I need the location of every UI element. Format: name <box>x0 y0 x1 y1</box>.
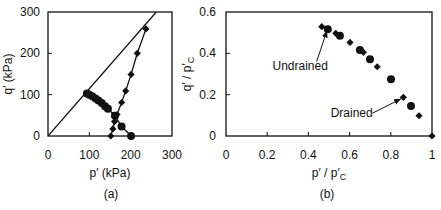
chart-a-ytick-1: 100 <box>20 88 40 102</box>
chart-b-data <box>318 23 435 140</box>
chart-a: 0 100 200 300 0 100 200 300 p′ (kPa) q′ … <box>1 5 182 201</box>
circle-marker <box>118 122 126 130</box>
chart-b-ylabel-sub: C <box>186 56 196 63</box>
annotation-label: Drained <box>331 106 373 120</box>
diamond-marker <box>118 99 125 106</box>
diamond-marker <box>400 94 407 101</box>
chart-b-ylabel: q′ / p′C <box>180 56 196 91</box>
chart-b-ylabel-main: q′ / p′ <box>180 63 194 92</box>
diamond-marker <box>374 63 381 70</box>
series-drained <box>318 23 435 140</box>
chart-b-ytick-2: 0.4 <box>199 46 216 60</box>
diamond-marker <box>109 125 116 132</box>
chart-b-xtick-4: 0.8 <box>382 148 399 162</box>
chart-a-ylabel: q′ (kPa) <box>1 54 15 95</box>
arrow-icon <box>372 99 401 113</box>
annotation-drained: Drained <box>331 99 401 121</box>
chart-a-ytick-3: 300 <box>20 5 40 19</box>
chart-b-xlabel-main: p′ / p′ <box>312 166 341 180</box>
chart-a-xtick-0: 0 <box>45 148 52 162</box>
chart-b-xtick-3: 0.6 <box>341 148 358 162</box>
diamond-marker <box>127 71 134 78</box>
chart-a-xlabel: p′ (kPa) <box>90 166 131 180</box>
chart-b-ytick-1: 0.2 <box>199 88 216 102</box>
arrow-icon <box>317 31 327 62</box>
figure: 0 100 200 300 0 100 200 300 p′ (kPa) q′ … <box>0 0 441 210</box>
diamond-marker <box>346 39 353 46</box>
annotation-label: Undrained <box>272 59 327 73</box>
chart-b-ytick-0: 0 <box>209 129 216 143</box>
chart-a-plot-frame <box>48 12 172 136</box>
chart-b-xlabel-sub: C <box>340 172 347 182</box>
diamond-marker <box>415 112 422 119</box>
chart-b: UndrainedDrained 0 0.2 0.4 0.6 0.8 1 0 0… <box>180 5 436 201</box>
series-drained <box>107 25 149 139</box>
chart-b-xtick-2: 0.4 <box>300 148 317 162</box>
chart-b-xtick-0: 0 <box>223 148 230 162</box>
chart-b-xtick-5: 1 <box>429 148 436 162</box>
annotation-undrained: Undrained <box>272 31 327 73</box>
chart-a-xtick-2: 200 <box>121 148 141 162</box>
series-critical-state-line <box>48 12 156 136</box>
chart-a-xtick-1: 100 <box>79 148 99 162</box>
circle-marker <box>366 55 374 63</box>
chart-a-data <box>48 12 156 140</box>
series-line <box>48 12 156 136</box>
diamond-marker <box>134 50 141 57</box>
circle-marker <box>387 75 395 83</box>
chart-a-ytick-0: 0 <box>33 129 40 143</box>
circle-marker <box>407 102 415 110</box>
series-undrained <box>83 89 135 140</box>
chart-a-panel-label: (a) <box>104 187 119 201</box>
chart-b-panel-label: (b) <box>320 187 335 201</box>
circle-marker <box>104 105 112 113</box>
chart-b-ytick-3: 0.6 <box>199 5 216 19</box>
chart-a-ytick-2: 200 <box>20 46 40 60</box>
chart-a-xtick-3: 300 <box>162 148 182 162</box>
chart-b-xtick-1: 0.2 <box>259 148 276 162</box>
chart-b-xlabel: p′ / p′C <box>312 166 347 182</box>
chart-b-annotations: UndrainedDrained <box>272 31 401 121</box>
diamond-marker <box>122 87 129 94</box>
